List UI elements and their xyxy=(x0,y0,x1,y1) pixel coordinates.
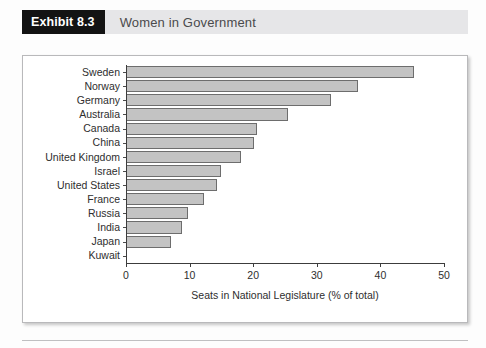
bar-row: Germany xyxy=(23,93,469,107)
bar-track xyxy=(126,65,456,79)
bar-row: United Kingdom xyxy=(23,150,469,164)
bar xyxy=(126,165,221,177)
category-label: United Kingdom xyxy=(23,152,126,163)
bar-track xyxy=(126,93,456,107)
category-label: Sweden xyxy=(23,67,126,78)
bar-row: Israel xyxy=(23,164,469,178)
bar-row: Canada xyxy=(23,122,469,136)
category-label: Australia xyxy=(23,109,126,120)
category-label: Russia xyxy=(23,208,126,219)
x-axis-tick-label: 40 xyxy=(375,269,387,281)
category-label: France xyxy=(23,194,126,205)
x-axis-tick xyxy=(253,263,254,267)
category-label: Norway xyxy=(23,81,126,92)
bar-row: Japan xyxy=(23,235,469,249)
bar xyxy=(126,108,288,120)
bar-row: Russia xyxy=(23,206,469,220)
x-axis-tick-label: 0 xyxy=(123,269,129,281)
bar-track xyxy=(126,249,456,263)
bar-row: China xyxy=(23,136,469,150)
bar xyxy=(126,207,188,219)
plot-area: SwedenNorwayGermanyAustraliaCanadaChinaU… xyxy=(23,65,469,280)
x-axis-tick-label: 30 xyxy=(311,269,323,281)
bar xyxy=(126,66,414,78)
x-axis-ticks: 01020304050 xyxy=(126,263,444,283)
y-axis-line xyxy=(126,65,127,263)
x-axis-tick-label: 20 xyxy=(247,269,259,281)
chart-frame: SwedenNorwayGermanyAustraliaCanadaChinaU… xyxy=(22,55,468,323)
bar xyxy=(126,137,254,149)
x-axis-tick xyxy=(444,263,445,267)
bar-row: India xyxy=(23,220,469,234)
bar xyxy=(126,123,257,135)
bar xyxy=(126,179,217,191)
x-axis-tick-label: 10 xyxy=(184,269,196,281)
bar-track xyxy=(126,164,456,178)
x-axis-tick xyxy=(380,263,381,267)
bar xyxy=(126,236,171,248)
bar-track xyxy=(126,107,456,121)
bar xyxy=(126,221,182,233)
bar xyxy=(126,94,331,106)
category-label: Kuwait xyxy=(23,250,126,261)
bar-track xyxy=(126,178,456,192)
bar xyxy=(126,193,204,205)
category-label: India xyxy=(23,222,126,233)
x-axis-title: Seats in National Legislature (% of tota… xyxy=(126,289,444,301)
bar-track xyxy=(126,122,456,136)
bar-row: United States xyxy=(23,178,469,192)
x-axis-tick xyxy=(317,263,318,267)
x-axis-tick xyxy=(126,263,127,267)
bar xyxy=(126,80,358,92)
bar xyxy=(126,151,241,163)
bar-track xyxy=(126,136,456,150)
category-label: United States xyxy=(23,180,126,191)
bar-track xyxy=(126,206,456,220)
bar-track xyxy=(126,192,456,206)
category-label: Germany xyxy=(23,95,126,106)
bar-row: Norway xyxy=(23,79,469,93)
category-label: Japan xyxy=(23,236,126,247)
bar-rows: SwedenNorwayGermanyAustraliaCanadaChinaU… xyxy=(23,65,469,263)
footer-rule xyxy=(22,340,468,341)
exhibit-number-badge: Exhibit 8.3 xyxy=(22,10,105,34)
bar-row: France xyxy=(23,192,469,206)
bar-track xyxy=(126,220,456,234)
bar-track xyxy=(126,150,456,164)
category-label: China xyxy=(23,137,126,148)
category-label: Canada xyxy=(23,123,126,134)
bar-row: Australia xyxy=(23,107,469,121)
bar-row: Sweden xyxy=(23,65,469,79)
exhibit-title: Women in Government xyxy=(105,10,256,34)
category-label: Israel xyxy=(23,166,126,177)
x-axis-tick-label: 50 xyxy=(438,269,450,281)
bar-track xyxy=(126,79,456,93)
x-axis-tick xyxy=(190,263,191,267)
bar-row: Kuwait xyxy=(23,249,469,263)
bar-track xyxy=(126,235,456,249)
exhibit-header: Exhibit 8.3 Women in Government xyxy=(22,10,468,34)
